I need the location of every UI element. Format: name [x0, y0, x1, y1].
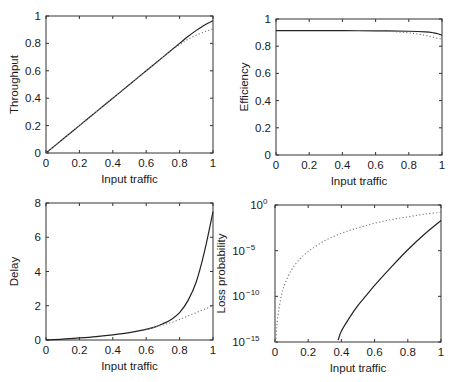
x-tick-label: 0 [43, 157, 49, 169]
panel-loss-probability: 00.20.40.60.8110−1510−1010−5100Input tra… [215, 197, 444, 374]
y-tick-label: 0.4 [25, 92, 42, 104]
y-axis-label: Delay [8, 257, 20, 287]
y-tick-label: 0.8 [255, 40, 271, 52]
y-tick-label: 0.2 [25, 120, 41, 132]
panel-efficiency: 00.20.40.60.8100.20.40.60.81Input traffi… [238, 13, 445, 187]
figure-canvas: 00.20.40.60.8100.20.40.60.81Input traffi… [0, 0, 452, 382]
x-tick-label: 0.8 [172, 344, 188, 356]
x-tick-label: 0.6 [367, 346, 383, 358]
y-tick-label: 4 [35, 266, 42, 278]
solid-series-line [338, 221, 441, 341]
x-axis-label: Input traffic [101, 360, 158, 372]
y-axis-label: Throughput [8, 54, 20, 114]
x-tick-label: 0.6 [368, 159, 384, 171]
x-tick-label: 0.4 [333, 346, 350, 358]
y-tick-label: 10 [232, 245, 245, 257]
x-tick-label: 1 [210, 344, 216, 356]
dotted-series-line [276, 212, 441, 342]
x-tick-label: 0.6 [138, 157, 154, 169]
x-tick-label: 0.4 [334, 159, 351, 171]
panel-throughput: 00.20.40.60.8100.20.40.60.81Input traffi… [8, 10, 216, 185]
y-tick-label: 0.8 [25, 37, 41, 49]
x-tick-label: 0.2 [301, 159, 317, 171]
y-tick-label: 1 [35, 10, 41, 22]
y-tick-label: 0.6 [255, 67, 271, 79]
y-tick-label: 0 [35, 334, 41, 346]
x-tick-label: 0.8 [172, 157, 188, 169]
x-tick-label: 0.2 [71, 157, 87, 169]
x-axis-label: Input traffic [331, 175, 388, 187]
y-tick-label: 0 [35, 147, 41, 159]
y-tick-label: 8 [35, 197, 41, 209]
x-axis-label: Input traffic [330, 362, 387, 374]
y-tick-label: 2 [35, 300, 41, 312]
plot-frame [46, 203, 213, 340]
x-axis-label: Input traffic [101, 173, 158, 185]
y-tick-label: 10 [250, 199, 263, 211]
x-tick-label: 1 [439, 159, 445, 171]
solid-series-line [276, 31, 442, 36]
dotted-series-line [146, 306, 213, 330]
solid-series-line [46, 21, 213, 153]
plot-frame [276, 19, 442, 155]
y-axis-label: Efficiency [238, 62, 250, 111]
x-tick-label: 0.4 [105, 157, 122, 169]
y-tick-label: 0.2 [255, 122, 271, 134]
x-tick-label: 0.8 [400, 346, 416, 358]
y-tick-exponent: 0 [263, 197, 268, 206]
y-tick-label: 0.4 [255, 95, 272, 107]
dotted-series-line [46, 29, 213, 153]
y-tick-label: 0.6 [25, 65, 41, 77]
y-tick-exponent: −5 [246, 243, 256, 252]
y-tick-label: 0 [265, 149, 271, 161]
solid-series-line [46, 212, 213, 340]
x-tick-label: 0 [273, 159, 279, 171]
panel-delay: 00.20.40.60.8102468Input trafficDelay [8, 197, 216, 372]
x-tick-label: 0.4 [105, 344, 122, 356]
x-tick-label: 0 [272, 346, 278, 358]
x-tick-label: 0.2 [300, 346, 316, 358]
plot-frame [275, 205, 441, 342]
y-tick-exponent: −15 [246, 334, 260, 343]
x-tick-label: 0.2 [71, 344, 87, 356]
x-tick-label: 1 [210, 157, 216, 169]
x-tick-label: 0.8 [401, 159, 417, 171]
y-tick-label: 10 [232, 336, 245, 348]
x-tick-label: 0 [43, 344, 49, 356]
y-tick-label: 10 [232, 290, 245, 302]
y-tick-label: 6 [35, 231, 41, 243]
y-tick-exponent: −10 [246, 288, 260, 297]
y-tick-label: 1 [265, 13, 271, 25]
y-axis-label: Loss probability [215, 233, 227, 313]
x-tick-label: 1 [438, 346, 444, 358]
x-tick-label: 0.6 [138, 344, 154, 356]
